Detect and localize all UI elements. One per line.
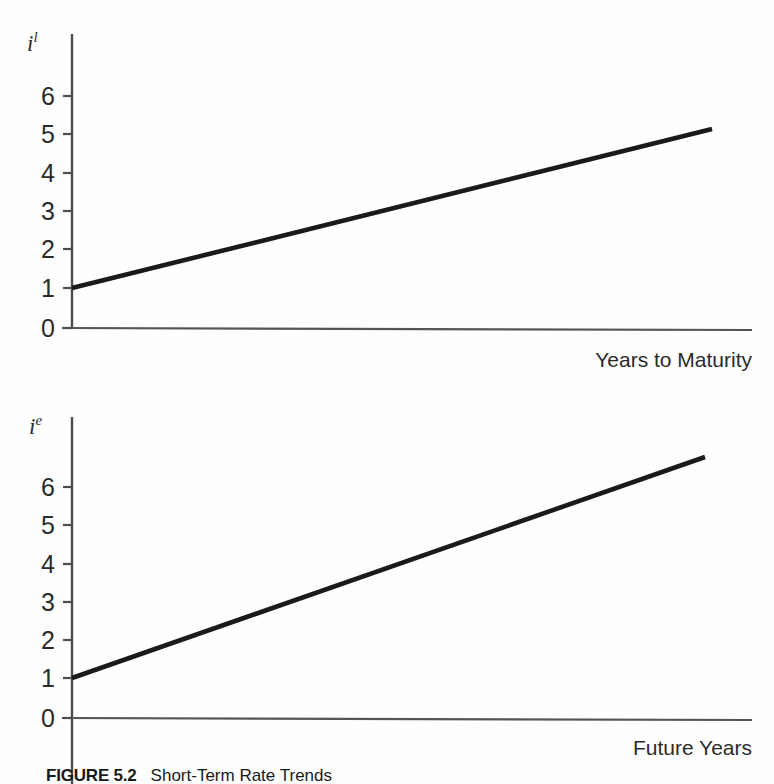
- data-line-expected-rate: [72, 457, 705, 678]
- x-axis-label-future-years: Future Years: [452, 736, 752, 760]
- figure-page: il 6 5 4 3 2 1 0 Years to Maturity: [0, 0, 774, 784]
- y-tick-label-2: 2: [29, 237, 55, 262]
- chart-canvas-long-term-rate: [0, 0, 774, 392]
- y-tick-label-3: 3: [29, 590, 55, 615]
- y-tick-label-6: 6: [29, 475, 55, 500]
- x-axis-label-years-to-maturity: Years to Maturity: [452, 348, 752, 372]
- y-tick-label-4: 4: [29, 161, 55, 186]
- y-tick-label-1: 1: [29, 276, 55, 301]
- figure-caption: FIGURE 5.2Short-Term Rate Trends: [46, 766, 766, 784]
- figure-caption-number: FIGURE 5.2: [46, 766, 137, 784]
- x-axis-line: [62, 718, 752, 720]
- chart-panel-long-term-rate: il 6 5 4 3 2 1 0 Years to Maturity: [0, 0, 774, 392]
- y-axis-symbol-long-term-rate: il: [27, 26, 38, 55]
- chart-panel-expected-rate: ie 6 5 4 3 2 1 0 Future Years: [0, 392, 774, 784]
- y-tick-label-5: 5: [29, 122, 55, 147]
- y-axis-symbol-expected-rate: ie: [29, 409, 42, 438]
- y-tick-label-5: 5: [29, 513, 55, 538]
- figure-caption-text: Short-Term Rate Trends: [151, 766, 332, 784]
- y-tick-label-2: 2: [29, 628, 55, 653]
- y-tick-label-0: 0: [29, 316, 55, 341]
- chart-canvas-expected-rate: [0, 392, 774, 784]
- x-axis-line: [62, 328, 752, 330]
- y-tick-label-0: 0: [29, 706, 55, 731]
- y-tick-label-3: 3: [29, 199, 55, 224]
- y-axis-symbol-superscript: e: [35, 412, 42, 428]
- y-tick-label-6: 6: [29, 84, 55, 109]
- y-tick-label-1: 1: [29, 666, 55, 691]
- y-tick-label-4: 4: [29, 552, 55, 577]
- y-axis-symbol-superscript: l: [33, 29, 37, 45]
- data-line-long-term-rate: [72, 129, 712, 288]
